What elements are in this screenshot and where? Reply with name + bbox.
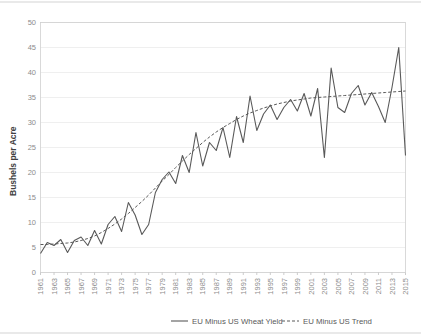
y-axis-title: Bushels per Acre — [8, 126, 18, 196]
x-tick-label: 1983 — [185, 278, 194, 295]
x-tick-label: 1963 — [50, 278, 59, 295]
x-tick-label: 1965 — [63, 278, 72, 295]
legend-label-trend: EU Minus US Trend — [303, 317, 372, 326]
y-tick-label: 20 — [28, 168, 36, 177]
x-tick-label: 1997 — [280, 278, 289, 295]
y-tick-label: 35 — [28, 93, 36, 102]
x-tick-label: 2011 — [374, 278, 383, 294]
gridlines — [41, 23, 406, 273]
x-tick-label: 1985 — [198, 278, 207, 295]
y-tick-label: 30 — [28, 118, 36, 127]
x-tick-label: 2005 — [334, 278, 343, 295]
legend: EU Minus US Wheat Yield EU Minus US Tren… — [171, 317, 372, 326]
x-tick-label: 1981 — [171, 278, 180, 295]
x-tick-label: 2007 — [347, 278, 356, 295]
x-tick-label: 1999 — [293, 278, 302, 295]
x-tick-label: 2015 — [401, 278, 410, 295]
x-tick-label: 1973 — [117, 278, 126, 295]
x-tick-label: 1993 — [252, 278, 261, 295]
y-axis-tick-labels: 05101520253035404550 — [28, 18, 36, 277]
x-tick-label: 2013 — [388, 278, 397, 295]
x-tick-label: 1971 — [104, 278, 113, 295]
x-tick-label: 2009 — [361, 278, 370, 295]
x-tick-label: 1961 — [36, 278, 45, 295]
x-tick-label: 2003 — [320, 278, 329, 295]
x-tick-label: 1989 — [225, 278, 234, 295]
x-axis-tick-labels: 1961196319651967196919711973197519771979… — [36, 273, 410, 295]
x-tick-label: 1977 — [144, 278, 153, 295]
y-tick-label: 50 — [28, 18, 36, 27]
y-tick-label: 40 — [28, 68, 36, 77]
y-tick-label: 5 — [32, 243, 36, 252]
series-line-eu-minus-us-trend — [41, 91, 406, 245]
x-tick-label: 1995 — [266, 278, 275, 295]
y-tick-label: 10 — [28, 218, 36, 227]
legend-label-wheat-yield: EU Minus US Wheat Yield — [192, 317, 283, 326]
y-tick-label: 0 — [32, 268, 36, 277]
x-tick-label: 1969 — [90, 278, 99, 295]
y-tick-label: 15 — [28, 193, 36, 202]
y-tick-label: 25 — [28, 143, 36, 152]
x-tick-label: 1967 — [77, 278, 86, 295]
x-tick-label: 1987 — [212, 278, 221, 295]
y-tick-label: 45 — [28, 43, 36, 52]
wheat-yield-chart: 05101520253035404550 1961196319651967196… — [0, 0, 421, 336]
x-tick-label: 1975 — [131, 278, 140, 295]
x-tick-label: 1979 — [158, 278, 167, 295]
x-tick-label: 2001 — [307, 278, 316, 295]
x-tick-label: 1991 — [239, 278, 248, 295]
